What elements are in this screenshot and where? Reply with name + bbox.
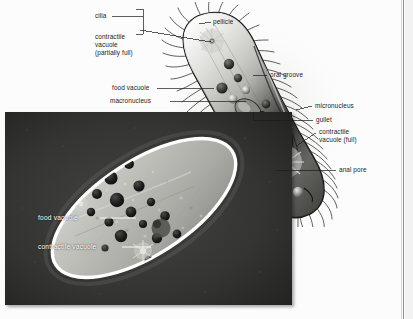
label-line-1: contractile: [319, 128, 349, 135]
label-contractile-vacuole-full: contractile vacuole (full): [319, 128, 381, 144]
label-anal-pore: anal pore: [339, 166, 367, 174]
label-line-3: (partially full): [95, 49, 133, 56]
label-line-2: vacuole (full): [319, 136, 357, 143]
label-micronucleus: micronucleus: [315, 102, 354, 110]
figure-page: cilia contractile vacuole (partially ful…: [0, 0, 413, 319]
label-food-vacuole: food vacuole: [112, 84, 149, 92]
label-cilia: cilia: [95, 12, 107, 20]
label-line-1: contractile: [95, 33, 125, 40]
page-border-line: [403, 0, 404, 319]
label-oral-groove: oral groove: [270, 71, 303, 79]
paramecium-micrograph: [5, 112, 292, 305]
photo-label-food-vacuole: food vacuole: [38, 214, 78, 222]
page-border-hairline: [401, 0, 402, 319]
label-pellicle: pellicle: [213, 18, 233, 26]
label-macronucleus: macronucleus: [110, 97, 151, 105]
photo-label-contractile-vacuole: contractile vacuole: [38, 243, 96, 251]
label-contractile-vacuole-partial: contractile vacuole (partially full): [95, 33, 147, 58]
label-gullet: gullet: [316, 116, 332, 124]
page-border-margin: [405, 0, 413, 319]
label-line-2: vacuole: [95, 41, 118, 48]
